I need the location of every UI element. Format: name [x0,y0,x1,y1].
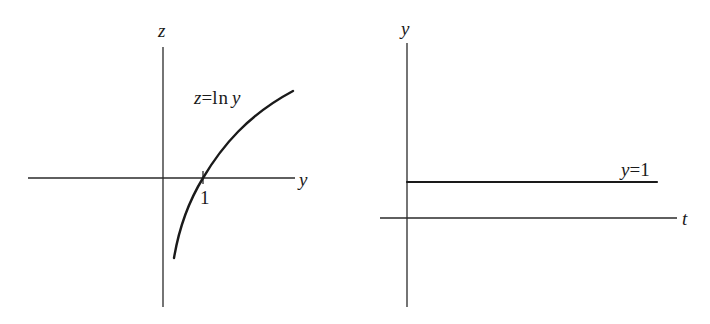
right-y-axis-label: y [399,18,410,39]
y-axis-label: y [297,169,308,190]
right-plot: y t y=1 [380,18,688,307]
left-plot: z y 1 z=lny [28,20,308,307]
curve-label: z=lny [193,87,241,108]
z-axis-label: z [157,20,166,41]
ln-curve [174,91,293,258]
line-label-var: y [619,159,630,180]
tick-label-1: 1 [200,187,210,208]
curve-label-eq: = [201,87,212,108]
t-axis-label: t [682,208,688,229]
diagram-canvas: z y 1 z=lny y t y=1 [0,0,710,324]
line-label-rest: =1 [629,159,649,180]
line-label: y=1 [619,159,650,180]
curve-label-ln: ln [212,87,229,108]
curve-label-var: y [230,87,241,108]
